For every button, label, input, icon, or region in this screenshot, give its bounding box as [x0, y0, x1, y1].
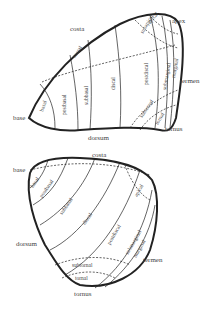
hw-zone-basal: basal: [29, 175, 41, 188]
forewing-apex-label: apex: [172, 17, 186, 25]
fw-zone-subbasal: subbasal: [83, 86, 89, 105]
hindwing: [29, 158, 157, 288]
hindwing-tornus-label: tornus: [74, 290, 92, 298]
fw-zone-costal: costal: [71, 44, 84, 58]
fw-zone-apical: apical: [146, 10, 159, 24]
fw-zone-marginal: marginal: [170, 58, 179, 79]
fw-zone-postbasal: postbasal: [61, 94, 67, 115]
fw-zone-basal: basal: [38, 99, 48, 112]
forewing-base-label: base: [13, 114, 25, 122]
fw-zone-postdiscal: postdiscal: [143, 63, 149, 85]
hw-zone-subtornal: subtornal: [72, 262, 93, 268]
hindwing-termen-label: termen: [143, 256, 163, 264]
hindwing-costa-label: costa: [92, 151, 107, 159]
forewing-costa-label: costa: [70, 25, 85, 33]
fw-zone-subtornal: subtornal: [138, 98, 155, 119]
hw-zone-subbasal: subbasal: [58, 196, 74, 215]
hw-zone-tornal: tornal: [75, 275, 88, 281]
fw-zone-discal: discal: [110, 77, 116, 90]
hindwing-dorsum-label: dorsum: [16, 240, 38, 248]
forewing-termen-label: termen: [180, 77, 200, 85]
hindwing-base-label: base: [13, 166, 25, 174]
forewing-dorsum-label: dorsum: [88, 134, 110, 142]
fw-zone-tornal: tornal: [154, 111, 166, 126]
wing-zones-diagram: costa apex termen tornus dorsum base bas…: [0, 0, 213, 309]
forewing-tornus-label: tornus: [165, 125, 183, 133]
